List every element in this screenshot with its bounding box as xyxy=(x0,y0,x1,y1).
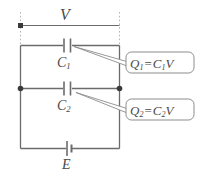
q1-voltage-symbol: V xyxy=(165,56,173,71)
voltage-span-marker xyxy=(18,23,23,28)
q1-capacitance-subscript: 1 xyxy=(161,63,165,72)
q2-capacitance-subscript: 2 xyxy=(161,110,165,119)
callout-q1-leader xyxy=(74,47,129,67)
callout-q2-equation: Q2=C2V xyxy=(130,104,173,117)
label-capacitor-c2: C2 xyxy=(57,99,71,113)
junction-dot-right xyxy=(117,86,123,92)
q2-voltage-symbol: V xyxy=(165,103,173,118)
label-c2-symbol: C xyxy=(57,98,66,113)
callout-q1-equation: Q1=C1V xyxy=(130,57,173,70)
q2-equals: = xyxy=(143,103,152,118)
label-capacitor-c1: C1 xyxy=(57,56,71,70)
label-c2-subscript: 2 xyxy=(66,104,70,114)
q2-charge-subscript: 2 xyxy=(139,110,143,119)
label-voltage: V xyxy=(60,7,70,23)
circuit-canvas xyxy=(0,0,198,179)
label-c1-subscript: 1 xyxy=(66,61,70,71)
q2-charge-symbol: Q xyxy=(130,103,139,118)
q1-charge-symbol: Q xyxy=(130,56,139,71)
q1-charge-subscript: 1 xyxy=(139,63,143,72)
label-emf: E xyxy=(62,158,71,172)
label-c1-symbol: C xyxy=(57,55,66,70)
q1-equals: = xyxy=(143,56,152,71)
junction-dot-left xyxy=(18,86,24,92)
circuit-diagram-figure: V C1 C2 E Q1=C1V Q2=C2V xyxy=(0,0,198,179)
callout-q2-leader xyxy=(76,93,129,114)
